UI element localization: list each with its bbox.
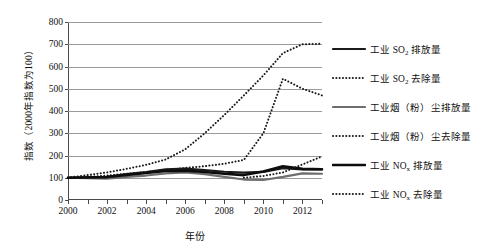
- legend-swatch-icon: [332, 43, 366, 55]
- series-line-2: [68, 44, 322, 178]
- legend: 工业 SO2 排放量工业 SO2 去除量工业烟（粉）尘排放量工业烟（粉）尘去除量…: [332, 34, 492, 208]
- x-tick-mark: [322, 200, 323, 204]
- y-axis-title: 指数（2000年指数为100）: [21, 13, 35, 193]
- y-tick-label: 100: [49, 173, 63, 183]
- x-tick-mark: [224, 200, 225, 204]
- legend-swatch-icon: [332, 101, 366, 113]
- x-tick-mark: [146, 200, 147, 204]
- legend-label: 工业 SO2 排放量: [370, 42, 441, 56]
- x-tick-label: 2008: [215, 206, 234, 216]
- x-axis-title: 年份: [68, 228, 322, 243]
- y-tick-label: 700: [49, 39, 63, 49]
- chart-figure: 指数（2000年指数为100） 010020030040050060070080…: [0, 0, 497, 250]
- x-tick-label: 2012: [293, 206, 312, 216]
- legend-swatch-icon: [332, 72, 366, 84]
- plot-area: 0100200300400500600700800 20002002200420…: [68, 22, 322, 200]
- y-tick-label: 400: [49, 106, 63, 116]
- y-tick-label: 300: [49, 128, 63, 138]
- y-tick-label: 200: [49, 151, 63, 161]
- x-tick-mark: [283, 200, 284, 204]
- x-tick-mark: [263, 200, 264, 204]
- y-tick-label: 0: [58, 195, 63, 205]
- x-tick-mark: [107, 200, 108, 204]
- x-tick-label: 2004: [137, 206, 156, 216]
- y-tick-label: 500: [49, 84, 63, 94]
- legend-item-1[interactable]: 工业 SO2 排放量: [332, 34, 492, 63]
- legend-item-6[interactable]: 工业 NOx 去除量: [332, 179, 492, 208]
- x-tick-mark: [127, 200, 128, 204]
- x-tick-mark: [185, 200, 186, 204]
- series-lines: [68, 22, 322, 200]
- series-line-4: [68, 79, 322, 178]
- x-tick-mark: [166, 200, 167, 204]
- legend-label: 工业烟（粉）尘排放量: [370, 100, 471, 114]
- legend-label: 工业 NOx 排放量: [370, 158, 443, 172]
- legend-item-3[interactable]: 工业烟（粉）尘排放量: [332, 92, 492, 121]
- x-tick-mark: [68, 200, 69, 204]
- legend-label: 工业烟（粉）尘去除量: [370, 129, 471, 143]
- legend-item-4[interactable]: 工业烟（粉）尘去除量: [332, 121, 492, 150]
- x-tick-mark: [205, 200, 206, 204]
- x-tick-mark: [302, 200, 303, 204]
- x-tick-label: 2000: [59, 206, 78, 216]
- x-tick-label: 2002: [98, 206, 117, 216]
- y-tick-label: 800: [49, 17, 63, 27]
- x-tick-label: 2006: [176, 206, 195, 216]
- x-tick-mark: [244, 200, 245, 204]
- legend-swatch-icon: [332, 188, 366, 200]
- legend-swatch-icon: [332, 130, 366, 142]
- x-tick-mark: [88, 200, 89, 204]
- legend-swatch-icon: [332, 159, 366, 171]
- legend-label: 工业 NOx 去除量: [370, 187, 443, 201]
- legend-item-2[interactable]: 工业 SO2 去除量: [332, 63, 492, 92]
- y-tick-label: 600: [49, 62, 63, 72]
- x-tick-label: 2010: [254, 206, 273, 216]
- legend-label: 工业 SO2 去除量: [370, 71, 441, 85]
- legend-item-5[interactable]: 工业 NOx 排放量: [332, 150, 492, 179]
